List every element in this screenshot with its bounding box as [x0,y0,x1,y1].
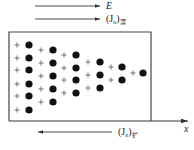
donor-electron-pair [38,98,56,105]
donor-electron-pair [14,80,32,87]
plus-icon [85,72,90,77]
plus-icon [38,86,43,91]
donor-electron-pair [61,89,79,96]
donor-electron-pair [14,92,32,99]
diffusion-current-label: (Jn)扩 [118,127,138,140]
electron-dot-icon [25,66,32,73]
diagram-canvas [0,0,194,150]
electron-dot-icon [118,76,125,83]
donor-electron-pair [14,54,32,61]
plus-icon [61,52,66,57]
carrier-diagram: E (Jn)漂 (Jn)扩 x [0,0,194,150]
plus-icon [85,59,90,64]
donor-electron-pair [38,59,56,66]
donor-electron-pair [130,69,146,76]
donor-electron-pair [108,76,125,83]
electron-dot-icon [72,51,79,58]
electron-dot-icon [49,59,56,66]
electron-dot-icon [49,85,56,92]
donor-electron-pair [14,66,32,73]
electron-dot-icon [49,46,56,53]
x-axis-label: x [184,124,188,134]
plus-icon [14,42,19,47]
electron-dot-icon [49,98,56,105]
electron-dot-icon [25,80,32,87]
electron-dot-icon [96,84,103,91]
donor-electron-pair [14,41,32,48]
electron-dot-icon [72,64,79,71]
donor-electron-pair [61,76,79,83]
plus-icon [108,77,113,82]
plus-icon [38,99,43,104]
electron-dot-icon [96,58,103,65]
donor-electron-pair [61,64,79,71]
plus-icon [108,64,113,69]
electron-dot-icon [118,63,125,70]
donor-electron-pair [108,63,125,70]
donor-electron-pair [38,72,56,79]
electron-dot-icon [25,106,32,113]
plus-icon [38,60,43,65]
plus-icon [38,73,43,78]
plus-icon [61,65,66,70]
donor-electron-pair [85,58,103,65]
donor-electron-pair [85,84,103,91]
plus-icon [14,55,19,60]
plus-icon [130,70,135,75]
plus-icon [61,77,66,82]
plus-icon [14,93,19,98]
donor-electron-pair [38,85,56,92]
particles-group [14,41,146,113]
donor-electron-pair [85,71,103,78]
donor-electron-pair [38,46,56,53]
plus-icon [14,67,19,72]
electron-dot-icon [25,54,32,61]
plus-icon [14,81,19,86]
donor-electron-pair [61,51,79,58]
plus-icon [38,47,43,52]
electron-dot-icon [96,71,103,78]
electron-dot-icon [72,89,79,96]
electron-dot-icon [25,41,32,48]
donor-electron-pair [14,106,32,113]
drift-current-label: (Jn)漂 [106,14,126,27]
plus-icon [85,85,90,90]
electron-dot-icon [49,72,56,79]
electron-dot-icon [139,69,146,76]
plus-icon [61,90,66,95]
electric-field-label: E [106,1,112,11]
electron-dot-icon [72,76,79,83]
plus-icon [14,107,19,112]
electron-dot-icon [25,92,32,99]
